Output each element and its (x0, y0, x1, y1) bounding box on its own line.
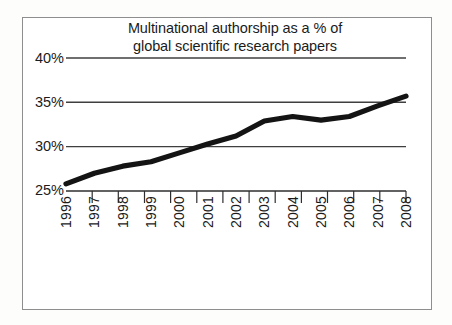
x-tick-label-text: 1999 (143, 196, 159, 228)
x-tick-label-1998: 1998 (116, 196, 130, 256)
x-tick-label-2001: 2001 (201, 196, 215, 256)
x-tick-label-2008: 2008 (399, 196, 413, 256)
figure-container: Multinational authorship as a % of globa… (0, 0, 452, 325)
x-tick-label-1999: 1999 (144, 196, 158, 256)
y-tick-label-40: 40% (22, 51, 64, 66)
y-tick-label-35: 35% (22, 95, 64, 110)
plot-area (66, 58, 406, 191)
chart-svg (66, 58, 406, 191)
x-tick-label-2000: 2000 (172, 196, 186, 256)
x-tick-label-text: 1997 (86, 196, 102, 228)
x-tick-label-2007: 2007 (371, 196, 385, 256)
x-tick-label-text: 2006 (341, 196, 357, 228)
x-tick-label-2004: 2004 (286, 196, 300, 256)
x-tick-label-1996: 1996 (59, 196, 73, 256)
x-tick-label-text: 2005 (313, 196, 329, 228)
x-tick-label-text: 2000 (171, 196, 187, 228)
x-tick-label-text: 2004 (285, 196, 301, 228)
x-tick-label-2002: 2002 (229, 196, 243, 256)
x-tick-label-text: 2002 (228, 196, 244, 228)
y-axis-labels: 40% 35% 30% 25% (20, 58, 64, 191)
x-tick-label-text: 2007 (370, 196, 386, 228)
x-tick-label-text: 1996 (58, 196, 74, 228)
data-series-line (66, 96, 406, 184)
x-tick-label-2005: 2005 (314, 196, 328, 256)
y-tick-label-30: 30% (22, 139, 64, 154)
x-axis-labels: 1996199719981999200020012002200320042005… (66, 196, 406, 266)
x-tick-label-2006: 2006 (342, 196, 356, 256)
x-tick-label-text: 2008 (398, 196, 414, 228)
x-tick-label-text: 2001 (200, 196, 216, 228)
x-tick-label-2003: 2003 (257, 196, 271, 256)
x-tick-label-1997: 1997 (87, 196, 101, 256)
x-tick-label-text: 1998 (115, 196, 131, 228)
chart-title: Multinational authorship as a % of globa… (60, 19, 410, 55)
x-tick-label-text: 2003 (256, 196, 272, 228)
